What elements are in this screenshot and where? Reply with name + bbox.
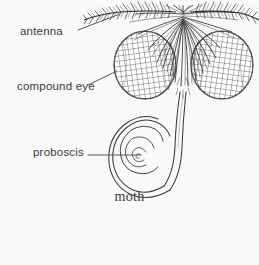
moth-illustration bbox=[0, 0, 259, 265]
label-compound-eye: compound eye bbox=[17, 81, 95, 93]
label-proboscis: proboscis bbox=[33, 147, 84, 159]
moth-anatomy-figure: antenna compound eye proboscis moth bbox=[0, 0, 259, 265]
label-antenna: antenna bbox=[20, 26, 63, 38]
figure-caption: moth bbox=[0, 189, 259, 205]
